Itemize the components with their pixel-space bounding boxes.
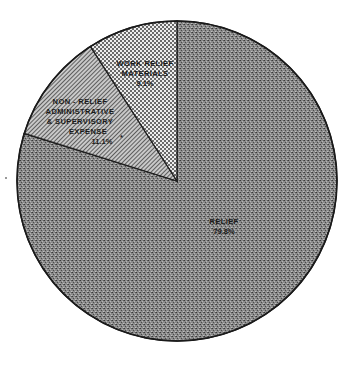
slice-label-line: ADMINISTRATIVE [46,107,115,116]
slice-label-line: & SUPERVISORY [47,117,113,126]
slice-label-line: NON - RELIEF [53,97,108,106]
pie-chart: RELIEF79.8%NON - RELIEFADMINISTRATIVE& S… [0,0,354,365]
slice-label-line: EXPENSE [69,127,107,136]
slice-percent-label: 79.8% [213,227,235,236]
slice-percent-label: 11.1% [92,137,113,146]
slice-label-line: WORK RELIEF [117,59,174,68]
slice-label-line: RELIEF [209,217,238,226]
slice-percent-label: 9.1% [136,79,153,88]
footnote-mark: * [120,133,123,142]
slice-label-relief: RELIEF79.8% [209,217,238,236]
slice-label-line: MATERIALS [122,69,169,78]
